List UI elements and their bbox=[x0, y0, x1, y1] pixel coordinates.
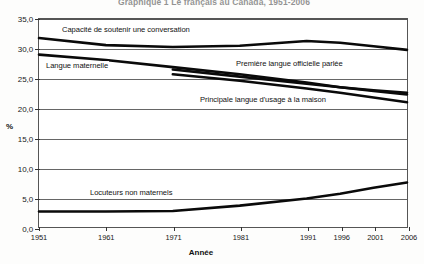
x-tick bbox=[174, 227, 175, 231]
series-label-maternelle: Langue maternelle bbox=[45, 61, 109, 70]
x-tick-label: 1981 bbox=[233, 233, 249, 242]
y-tick-label: 5,0 bbox=[22, 195, 33, 204]
x-tick-label: 1996 bbox=[334, 233, 350, 242]
plot-area: 0,05,010,015,020,025,030,035,0 195119611… bbox=[38, 18, 408, 228]
series-label-officielle: Première langue officielle parlée bbox=[235, 59, 344, 68]
x-axis-title-text: Année bbox=[189, 248, 213, 257]
x-tick bbox=[375, 227, 376, 231]
x-tick-label: 1971 bbox=[165, 233, 181, 242]
chart-title: Graphique 1 Le français au Canada, 1951-… bbox=[118, 0, 418, 9]
chart-page: Graphique 1 Le français au Canada, 1951-… bbox=[0, 0, 424, 264]
y-tick-label: 10,0 bbox=[18, 165, 33, 174]
x-axis-title: Année bbox=[0, 248, 424, 257]
y-tick-label: 20,0 bbox=[18, 105, 33, 114]
x-tick bbox=[106, 227, 107, 231]
x-tick bbox=[39, 227, 40, 231]
x-tick bbox=[409, 227, 410, 231]
y-tick-label: 35,0 bbox=[18, 15, 33, 24]
x-tick-label: 1951 bbox=[31, 233, 47, 242]
x-tick-label: 1991 bbox=[300, 233, 316, 242]
series-line bbox=[173, 70, 407, 93]
series-label-maison: Principale langue d'usage à la maison bbox=[199, 95, 327, 104]
x-tick-label: 1961 bbox=[98, 233, 114, 242]
x-tick-label: 2006 bbox=[401, 233, 417, 242]
y-tick-label: 25,0 bbox=[18, 75, 33, 84]
series-label-conversation: Capacité de soutenir une conversation bbox=[61, 25, 191, 34]
x-tick-label: 2001 bbox=[367, 233, 383, 242]
series-line bbox=[39, 38, 407, 50]
x-tick bbox=[308, 227, 309, 231]
y-tick-label: 15,0 bbox=[18, 135, 33, 144]
x-tick bbox=[342, 227, 343, 231]
y-axis-title: % bbox=[6, 122, 13, 131]
series-label-locuteurs: Locuteurs non maternels bbox=[89, 188, 173, 197]
x-tick bbox=[241, 227, 242, 231]
y-tick-label: 30,0 bbox=[18, 45, 33, 54]
